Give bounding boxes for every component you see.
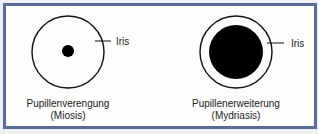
iris-label-left: Iris: [116, 36, 129, 47]
mydriasis-figure: Iris Pupillenerweiterung (Mydriasis): [192, 16, 304, 121]
caption-subtitle-right: (Mydriasis): [212, 110, 261, 121]
miosis-figure: Iris Pupillenverengung (Miosis): [27, 16, 130, 121]
caption-subtitle-left: (Miosis): [51, 110, 86, 121]
iris-label-right: Iris: [291, 38, 304, 49]
pupil-diagram: Iris Pupillenverengung (Miosis) Iris Pup…: [0, 0, 319, 134]
pupil-large: [209, 25, 263, 79]
caption-title-right: Pupillenerweiterung: [192, 98, 280, 109]
pupil-small: [62, 45, 74, 57]
caption-title-left: Pupillenverengung: [27, 98, 110, 109]
